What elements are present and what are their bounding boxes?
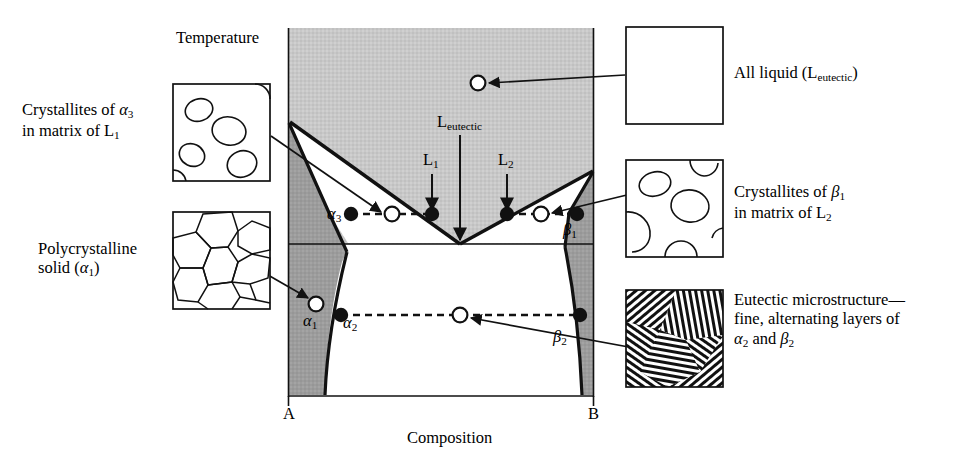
swatch-all-liquid xyxy=(626,27,723,124)
callout-polycrystalline-text: Polycrystalline solid (α1) xyxy=(38,239,137,280)
point-L2 xyxy=(500,207,514,221)
label-alpha2: α2 xyxy=(343,313,357,334)
point-overall-upper-left xyxy=(385,207,400,222)
point-L1 xyxy=(425,207,439,221)
x-axis-title: Composition xyxy=(407,428,492,447)
point-alpha3 xyxy=(344,207,358,221)
point-beta2 xyxy=(573,308,587,322)
label-alpha1: α1 xyxy=(303,311,317,332)
point-overall-Leutectic xyxy=(471,76,486,91)
label-beta1: β1 xyxy=(563,220,577,241)
callout-crystallites-beta1-text: Crystallites of β1 in matrix of L2 xyxy=(734,182,845,225)
y-axis-title: Temperature xyxy=(176,28,259,47)
label-L1: L1 xyxy=(423,150,439,171)
callout-all-liquid-text: All liquid (Leutectic) xyxy=(734,63,858,84)
callout-eutectic-microstructure-text: Eutectic microstructure— fine, alternati… xyxy=(734,290,905,350)
figure-canvas: Temperature Composition A B Leutectic L1… xyxy=(0,0,971,460)
swatch-crystallites-alpha3 xyxy=(173,84,270,182)
callout-crystallites-alpha3-text: Crystallites of α3 in matrix of L1 xyxy=(22,100,133,143)
label-alpha3: α3 xyxy=(327,204,341,225)
point-overall-eutectic xyxy=(453,308,468,323)
x-tick-label-B: B xyxy=(588,404,599,423)
label-beta2: β2 xyxy=(553,327,567,348)
point-overall-alpha1 xyxy=(309,297,324,312)
point-overall-upper-right xyxy=(534,207,549,222)
swatch-eutectic-microstructure xyxy=(626,290,723,387)
swatch-polycrystalline xyxy=(173,212,270,309)
x-tick-label-A: A xyxy=(283,404,295,423)
label-L-eutectic: Leutectic xyxy=(437,112,482,133)
label-L2: L2 xyxy=(498,150,514,171)
swatch-crystallites-beta1 xyxy=(626,160,723,257)
